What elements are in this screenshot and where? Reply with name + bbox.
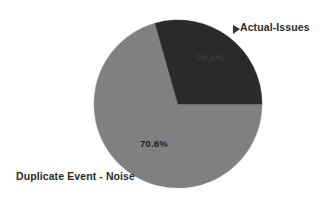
pie-label-actual-issues: Actual-Issues — [240, 21, 310, 33]
pie-label-duplicate-event-noise: Duplicate Event - Noise — [16, 170, 135, 182]
callout-line-actual-issues — [233, 25, 240, 34]
pie-chart-figure: Actual-Issues Duplicate Event - Noise 29… — [0, 0, 333, 205]
pie-value-actual-issues: 29.4% — [196, 52, 224, 63]
pie-value-duplicate-event-noise: 70.6% — [140, 138, 168, 149]
